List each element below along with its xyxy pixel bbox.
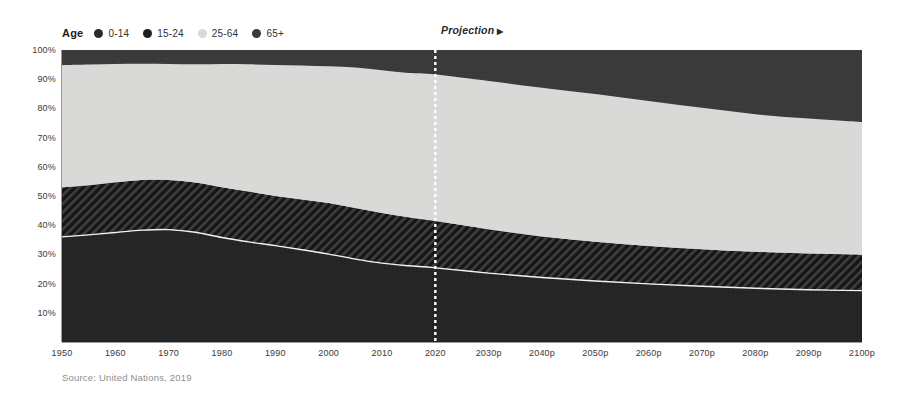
x-axis-tick: 2100p [849, 348, 875, 358]
x-axis-tick: 2000 [318, 348, 339, 358]
stacked-area-plot [62, 50, 862, 342]
y-axis-tick: 40% [37, 220, 56, 230]
legend-label-0-14: 0-14 [108, 28, 129, 39]
x-axis-tick: 2060p [636, 348, 662, 358]
x-axis-tick: 2030p [476, 348, 502, 358]
chart-page: Age 0-14 15-24 25-64 65+ Projection▶ [0, 0, 910, 397]
projection-label: Projection [441, 24, 494, 36]
x-axis-tick: 2020 [425, 348, 446, 358]
y-axis-tick: 50% [37, 191, 56, 201]
y-axis-tick: 30% [37, 249, 56, 259]
legend: Age 0-14 15-24 25-64 65+ [62, 25, 298, 41]
chart-svg [62, 50, 862, 342]
legend-item-65-plus[interactable]: 65+ [252, 28, 284, 39]
y-axis-tick: 10% [37, 308, 56, 318]
x-axis-tick: 1990 [265, 348, 286, 358]
x-axis-tick: 2040p [529, 348, 555, 358]
legend-swatch-25-64 [198, 29, 207, 38]
x-axis-tick: 2010 [372, 348, 393, 358]
x-axis-tick: 2070p [689, 348, 715, 358]
source-note: Source: United Nations, 2019 [62, 372, 192, 383]
legend-item-0-14[interactable]: 0-14 [94, 28, 129, 39]
legend-swatch-65-plus [252, 29, 261, 38]
x-axis-tick: 1980 [212, 348, 233, 358]
x-axis-tick: 2080p [742, 348, 768, 358]
y-axis: 100%90%80%70%60%50%40%30%20%10% [0, 0, 62, 397]
x-axis-tick: 1960 [105, 348, 126, 358]
y-axis-tick: 60% [37, 162, 56, 172]
y-axis-tick: 70% [37, 133, 56, 143]
x-axis-tick: 1950 [52, 348, 73, 358]
y-axis-tick: 100% [32, 45, 56, 55]
legend-label-25-64: 25-64 [212, 28, 239, 39]
y-axis-tick: 20% [37, 279, 56, 289]
legend-title: Age [62, 27, 83, 39]
legend-item-25-64[interactable]: 25-64 [198, 28, 239, 39]
legend-item-15-24[interactable]: 15-24 [143, 28, 184, 39]
y-axis-tick: 90% [37, 74, 56, 84]
x-axis-tick: 2090p [796, 348, 822, 358]
projection-arrow-icon: ▶ [497, 27, 503, 36]
y-axis-tick: 80% [37, 103, 56, 113]
legend-label-65-plus: 65+ [266, 28, 284, 39]
x-axis-tick: 1970 [158, 348, 179, 358]
x-axis-line [62, 342, 862, 343]
legend-swatch-0-14 [94, 29, 103, 38]
x-axis: 195019601970198019902000201020202030p204… [0, 348, 910, 364]
legend-swatch-15-24 [143, 29, 152, 38]
legend-label-15-24: 15-24 [157, 28, 184, 39]
projection-annotation: Projection▶ [441, 24, 504, 36]
x-axis-tick: 2050p [582, 348, 608, 358]
